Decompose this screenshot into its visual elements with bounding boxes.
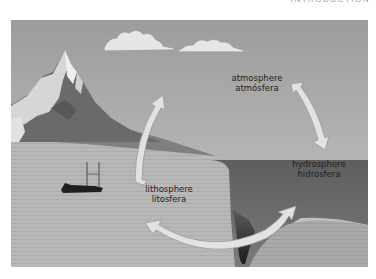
- lithosphere-label: lithosphere litosfera: [129, 184, 209, 204]
- diagram-illustration: [11, 20, 368, 267]
- atmosphere-label-en: atmosphere: [217, 73, 297, 83]
- hydrosphere-label-en: hydrosphere: [279, 159, 359, 169]
- atmosphere-label: atmosphere atmósfera: [217, 73, 297, 93]
- lithosphere-label-es: litosfera: [129, 194, 209, 204]
- hydrosphere-label-es: hidrosfera: [279, 169, 359, 179]
- earth-spheres-diagram: atmosphere atmósfera hydrosphere hidrosf…: [11, 20, 368, 267]
- page-header: INTRODUCTION: [291, 0, 370, 4]
- lithosphere-label-en: lithosphere: [129, 184, 209, 194]
- atmosphere-label-es: atmósfera: [217, 83, 297, 93]
- hydrosphere-label: hydrosphere hidrosfera: [279, 159, 359, 179]
